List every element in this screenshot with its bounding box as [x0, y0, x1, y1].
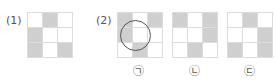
part1-grid: [27, 12, 73, 58]
grid-cell: [258, 28, 273, 43]
part2-label: (2): [96, 14, 112, 27]
grid-cell: [188, 28, 203, 43]
grid-cell: [43, 28, 58, 43]
grid-cell: [28, 13, 43, 28]
grid-cell: [28, 43, 43, 58]
grid-cell: [148, 43, 163, 58]
grid-cell: [173, 13, 188, 28]
grid-cell: [258, 43, 273, 58]
option-b-label[interactable]: ㉡: [187, 62, 201, 78]
grid-cell: [58, 43, 73, 58]
option-c-label[interactable]: ㉢: [242, 62, 256, 78]
grid-cell: [58, 13, 73, 28]
grid-cell: [28, 28, 43, 43]
grid-cell: [188, 13, 203, 28]
grid-cell: [173, 28, 188, 43]
option-b-grid: [172, 12, 218, 58]
grid-cell: [58, 28, 73, 43]
grid-cell: [43, 13, 58, 28]
grid-cell: [243, 43, 258, 58]
part1-label: (1): [6, 14, 22, 27]
grid-cell: [228, 13, 243, 28]
grid-cell: [43, 43, 58, 58]
grid-cell: [228, 43, 243, 58]
grid-cell: [188, 43, 203, 58]
option-c-grid: [227, 12, 273, 58]
grid-cell: [203, 13, 218, 28]
grid-cell: [258, 13, 273, 28]
grid-cell: [228, 28, 243, 43]
selection-circle: [120, 20, 151, 51]
grid-cell: [243, 28, 258, 43]
grid-cell: [203, 28, 218, 43]
option-a-label[interactable]: ㉠: [131, 62, 145, 78]
grid-cell: [243, 13, 258, 28]
grid-cell: [203, 43, 218, 58]
grid-cell: [148, 13, 163, 28]
grid-cell: [173, 43, 188, 58]
